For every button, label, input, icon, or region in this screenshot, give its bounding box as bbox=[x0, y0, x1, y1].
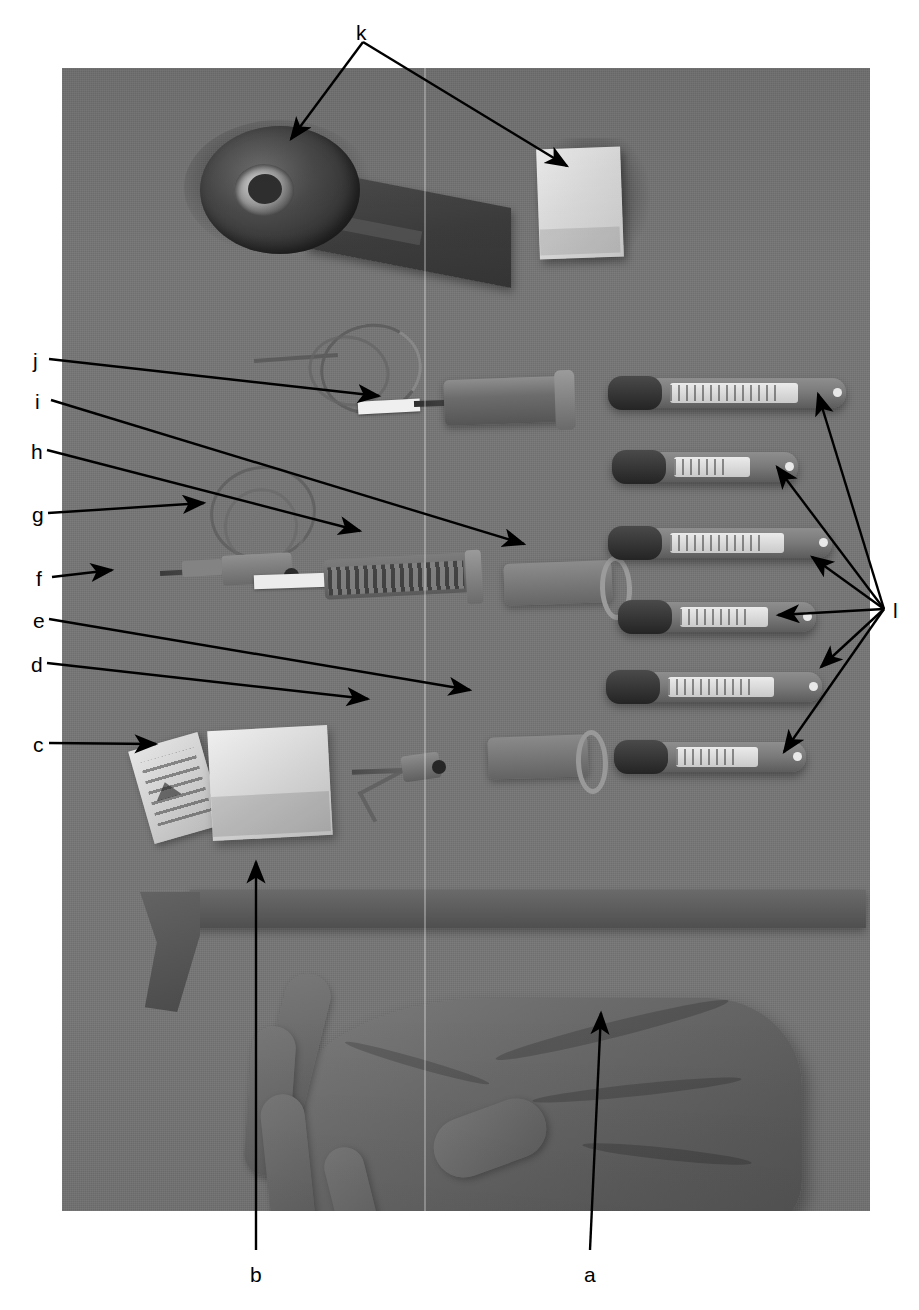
leader-line-e-1 bbox=[49, 619, 470, 690]
leader-line-g-1 bbox=[48, 503, 204, 513]
annotation-label-f: f bbox=[36, 568, 42, 589]
leader-line-i-1 bbox=[51, 400, 524, 544]
annotation-label-i: i bbox=[35, 391, 40, 412]
leader-line-d-1 bbox=[47, 663, 368, 699]
annotation-label-a: a bbox=[584, 1264, 596, 1285]
leader-line-l-2 bbox=[777, 467, 884, 609]
annotation-label-c: c bbox=[33, 734, 44, 755]
leader-line-f-1 bbox=[52, 570, 112, 577]
annotation-label-e: e bbox=[33, 610, 45, 631]
annotation-label-k: k bbox=[356, 22, 367, 43]
annotation-label-b: b bbox=[250, 1264, 262, 1285]
leader-line-k-1 bbox=[291, 42, 363, 139]
annotation-label-h: h bbox=[31, 441, 43, 462]
figure-root: kjihgfedclba bbox=[0, 0, 919, 1310]
annotation-label-d: d bbox=[31, 654, 43, 675]
leader-line-l-4 bbox=[778, 609, 884, 615]
leader-line-a-1 bbox=[590, 1013, 601, 1250]
annotation-label-g: g bbox=[32, 504, 44, 525]
leader-line-l-6 bbox=[784, 609, 884, 752]
leader-line-l-1 bbox=[818, 394, 884, 609]
leader-line-k-2 bbox=[363, 42, 567, 166]
annotation-overlay bbox=[0, 0, 919, 1310]
leader-line-c-1 bbox=[49, 743, 156, 744]
leader-line-l-3 bbox=[812, 557, 884, 609]
leader-line-h-1 bbox=[47, 450, 360, 531]
annotation-label-l: l bbox=[893, 600, 898, 621]
leader-line-l-5 bbox=[821, 609, 884, 667]
annotation-label-j: j bbox=[33, 350, 38, 371]
leader-line-j-1 bbox=[49, 359, 379, 396]
